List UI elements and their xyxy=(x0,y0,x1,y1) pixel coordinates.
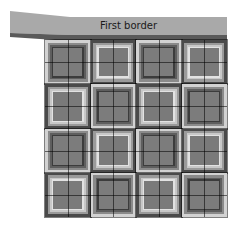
seam-line xyxy=(136,106,182,107)
seam-line xyxy=(45,106,91,107)
quilt-block-a xyxy=(45,129,91,173)
seam-line xyxy=(182,195,228,196)
quilt-block-a xyxy=(182,173,228,217)
first-border-banner: First border xyxy=(10,11,227,41)
seam-line xyxy=(136,195,182,196)
seam-line xyxy=(91,195,137,196)
quilt-block-b xyxy=(136,84,182,128)
seam-line xyxy=(91,106,137,107)
quilt-block-b xyxy=(182,129,228,173)
quilt-block-b xyxy=(91,40,137,84)
quilt-block-b xyxy=(182,40,228,84)
banner-label: First border xyxy=(10,20,227,31)
seam-line xyxy=(182,106,228,107)
seam-line xyxy=(136,62,182,63)
seam-line xyxy=(45,195,91,196)
quilt-block-b xyxy=(45,84,91,128)
seam-line xyxy=(91,62,137,63)
quilt-block-a xyxy=(136,129,182,173)
seam-line xyxy=(45,151,91,152)
quilt-block-a xyxy=(91,173,137,217)
seam-line xyxy=(136,151,182,152)
quilt-block-a xyxy=(182,84,228,128)
quilt-block-a xyxy=(91,84,137,128)
quilt-block-b xyxy=(45,173,91,217)
quilt-block-b xyxy=(136,173,182,217)
seam-line xyxy=(45,62,91,63)
quilt-block-b xyxy=(91,129,137,173)
quilt-grid xyxy=(45,40,227,217)
seam-line xyxy=(182,151,228,152)
quilt-block-a xyxy=(136,40,182,84)
quilt-block-a xyxy=(45,40,91,84)
seam-line xyxy=(91,151,137,152)
seam-line xyxy=(182,62,228,63)
